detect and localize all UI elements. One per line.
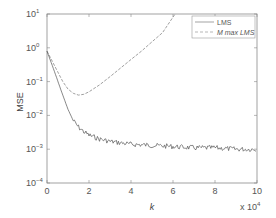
x-axis-ticks: 0246810 [44,14,262,196]
y-tick-label: 100 [26,42,40,53]
x-tick-label: 0 [44,186,49,196]
x-tick-label: 4 [128,186,133,196]
x-tick-label: 2 [86,186,91,196]
x-tick-label: 10 [252,186,262,196]
plot-frame [47,14,257,183]
x-tick-label: 8 [212,186,217,196]
y-tick-label: 10−1 [26,76,44,87]
y-axis-label: MSE [15,92,25,112]
x-axis-label: k [150,202,155,212]
series-mmax-lms-line [47,14,175,95]
y-tick-label: 10−3 [26,143,44,154]
y-tick-label: 10−4 [26,177,44,188]
x-axis-multiplier: x 104 [240,201,261,212]
y-tick-label: 101 [26,8,40,19]
mse-chart: 10110010−110−210−310−4 0246810 MSE k x 1… [0,0,276,218]
legend-label-lms: LMS [217,19,232,26]
series-lms-line [47,51,256,151]
legend: LMS M max LMS [192,16,255,38]
y-tick-label: 10−2 [26,109,44,120]
x-tick-label: 6 [170,186,175,196]
legend-label-mmax-lms: M max LMS [217,29,255,36]
